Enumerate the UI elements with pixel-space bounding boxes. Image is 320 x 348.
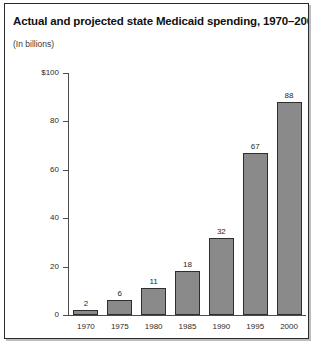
chart-figure: Actual and projected state Medicaid spen… [4, 3, 309, 339]
bar-value-label: 2 [66, 299, 106, 308]
y-tick-mark [63, 315, 68, 316]
y-tick-label: $100 [41, 69, 59, 77]
y-tick-mark [63, 73, 68, 74]
y-tick-label: 60 [50, 166, 59, 174]
y-tick-mark [63, 267, 68, 268]
bar[interactable] [141, 288, 166, 315]
y-tick-label: 0 [55, 311, 59, 319]
x-tick-label: 2000 [269, 322, 309, 331]
bar[interactable] [209, 238, 234, 315]
y-tick-label: 20 [50, 263, 59, 271]
bar[interactable] [277, 102, 302, 315]
y-axis-line [68, 73, 69, 316]
y-tick-label: 80 [50, 117, 59, 125]
x-axis-line [68, 315, 306, 316]
plot-area: 020406080$100 261118326788 1970197519801… [5, 4, 309, 339]
bar[interactable] [175, 271, 200, 315]
bar[interactable] [243, 153, 268, 315]
y-tick-mark [63, 170, 68, 171]
bar-value-label: 11 [134, 277, 174, 286]
y-tick-mark [63, 218, 68, 219]
bar-value-label: 6 [100, 289, 140, 298]
bar-value-label: 32 [201, 227, 241, 236]
bar-value-label: 88 [269, 91, 309, 100]
bar[interactable] [107, 300, 132, 315]
bar[interactable] [73, 310, 98, 315]
y-tick-label: 40 [50, 214, 59, 222]
bar-value-label: 67 [235, 142, 275, 151]
bar-value-label: 18 [168, 260, 208, 269]
y-tick-mark [63, 121, 68, 122]
